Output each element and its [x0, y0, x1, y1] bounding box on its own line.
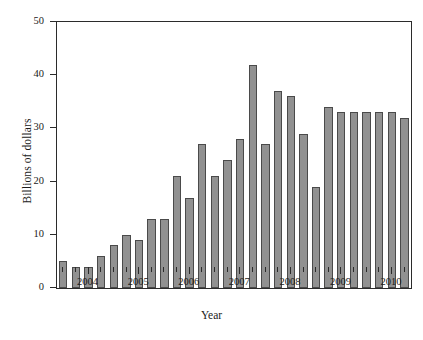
bar	[249, 65, 257, 288]
x-tick-mark	[277, 267, 278, 272]
x-tick-mark	[201, 267, 202, 272]
x-tick-mark-major	[88, 267, 89, 274]
x-tick-mark-major	[239, 267, 240, 274]
x-tick-mark	[75, 267, 76, 272]
x-tick-mark	[163, 267, 164, 272]
bar	[160, 219, 168, 288]
x-tick-mark	[366, 267, 367, 272]
x-tick-mark-major	[290, 267, 291, 274]
x-tick-mark	[126, 267, 127, 272]
x-tick-mark	[62, 267, 63, 272]
bar	[324, 107, 332, 288]
x-tick-mark	[353, 267, 354, 272]
x-tick-mark	[315, 267, 316, 272]
bar	[375, 112, 383, 288]
bar	[185, 198, 193, 288]
y-tick-label: 20	[4, 176, 44, 187]
plot-area	[56, 21, 412, 289]
x-tick-mark-major	[391, 267, 392, 274]
x-tick-mark-major	[340, 267, 341, 274]
x-tick-mark	[404, 267, 405, 272]
x-tick-label: 2006	[169, 276, 209, 287]
x-tick-mark	[176, 267, 177, 272]
x-tick-mark	[151, 267, 152, 272]
y-tick-label: 10	[4, 229, 44, 240]
bar	[350, 112, 358, 288]
x-axis-title: Year	[0, 309, 423, 321]
x-tick-label: 2004	[68, 276, 108, 287]
x-tick-mark-major	[138, 267, 139, 274]
x-tick-label: 2008	[270, 276, 310, 287]
x-tick-mark	[303, 267, 304, 272]
y-tick-mark	[50, 127, 56, 128]
x-tick-label: 2010	[371, 276, 411, 287]
bar	[362, 112, 370, 288]
y-tick-label: 40	[4, 69, 44, 80]
x-tick-mark	[214, 267, 215, 272]
bar	[299, 134, 307, 288]
y-tick-label: 50	[4, 16, 44, 27]
bar	[287, 96, 295, 288]
bar	[388, 112, 396, 288]
y-tick-label: 30	[4, 122, 44, 133]
bar-chart-figure: Billions of dollars 01020304050 20042005…	[0, 0, 423, 340]
y-tick-label: 0	[4, 282, 44, 293]
x-tick-mark	[265, 267, 266, 272]
x-tick-mark	[328, 267, 329, 272]
x-tick-mark	[378, 267, 379, 272]
x-tick-mark-major	[189, 267, 190, 274]
bar	[337, 112, 345, 288]
y-tick-mark	[50, 74, 56, 75]
y-tick-mark	[50, 181, 56, 182]
x-tick-mark	[227, 267, 228, 272]
bar	[400, 118, 408, 288]
bar	[59, 261, 67, 288]
x-tick-mark	[113, 267, 114, 272]
bar	[312, 187, 320, 288]
x-tick-label: 2007	[219, 276, 259, 287]
bar	[274, 91, 282, 288]
y-tick-mark	[50, 287, 56, 288]
bar-series	[57, 22, 411, 288]
x-tick-label: 2005	[118, 276, 158, 287]
x-tick-mark	[100, 267, 101, 272]
x-tick-mark	[252, 267, 253, 272]
x-tick-label: 2009	[320, 276, 360, 287]
y-tick-mark	[50, 234, 56, 235]
y-tick-mark	[50, 21, 56, 22]
y-axis-title: Billions of dollars	[21, 76, 33, 246]
bar	[236, 139, 244, 288]
